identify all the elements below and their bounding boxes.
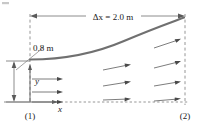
velocity-arrow-icon	[175, 81, 181, 85]
velocity-vector	[154, 40, 178, 48]
height-arrow-down-icon	[12, 95, 17, 102]
x-axis-label: x	[57, 104, 62, 114]
delta-x-label: Δx = 2.0 m	[93, 12, 133, 22]
velocity-vector	[154, 99, 178, 101]
height-arrow-up-icon	[12, 61, 17, 68]
velocity-arrow-icon	[57, 77, 63, 81]
velocity-arrow-icon	[125, 81, 132, 85]
dimension-arrow-left-icon	[30, 13, 37, 18]
velocity-vectors-station-2	[154, 39, 181, 102]
scan-artifact-mark	[2, 2, 9, 4]
station-2-label: (2)	[180, 111, 191, 121]
velocity-vector	[154, 62, 178, 68]
velocity-arrow-icon	[125, 98, 132, 102]
velocity-vector	[103, 99, 128, 100]
y-axis-label: y	[34, 76, 39, 86]
velocity-arrow-icon	[175, 97, 182, 101]
velocity-arrow-icon	[125, 64, 132, 68]
velocity-arrow-icon	[175, 39, 181, 43]
velocity-arrow-icon	[57, 90, 63, 94]
velocity-vector	[103, 82, 128, 86]
fluid-flow-figure: Δx = 2.0 m 0.8 m y x	[0, 0, 200, 125]
velocity-arrow-icon	[175, 61, 181, 65]
y-axis-arrow-icon	[28, 64, 32, 70]
height-label: 0.8 m	[33, 43, 54, 53]
velocity-vector	[103, 65, 128, 70]
velocity-vector	[154, 82, 178, 86]
velocity-vectors-mid	[103, 64, 131, 102]
station-1-label: (1)	[25, 111, 36, 121]
boundary-streamline-curve	[30, 18, 184, 60]
figure-canvas: Δx = 2.0 m 0.8 m y x	[0, 0, 200, 125]
